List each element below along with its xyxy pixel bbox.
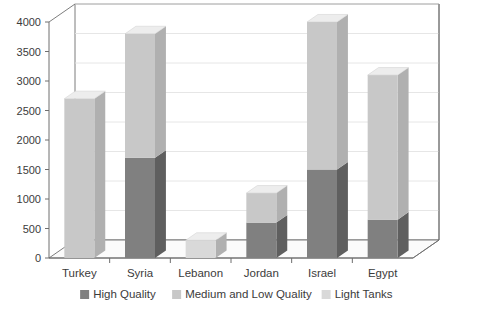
chart-container: 05001000150020002500300035004000 TurkeyS… [0,0,478,312]
square-swatch-icon [322,290,331,299]
y-tick-label: 2500 [17,105,41,117]
x-category-label: Jordan [244,267,279,279]
legend-label: Light Tanks [335,288,393,300]
square-swatch-icon [80,290,89,299]
bar-chart-3d: 05001000150020002500300035004000 TurkeyS… [0,0,478,312]
x-category-label: Lebanon [178,267,223,279]
legend-label: High Quality [93,288,156,300]
y-tick-label: 1500 [17,164,41,176]
x-category-label: Egypt [368,267,398,279]
bar-segment [64,91,105,258]
y-tick-label: 1000 [17,193,41,205]
legend-item[interactable]: High Quality [80,288,156,300]
y-tick-label: 3000 [17,75,41,87]
x-category-label: Turkey [62,267,97,279]
x-category-label: Israel [308,267,336,279]
x-axis-category-labels: TurkeySyriaLebanonJordanIsraelEgypt [62,267,398,279]
bar-segment [125,26,166,157]
chart-legend: High QualityMedium and Low QualityLight … [80,288,393,300]
y-tick-label: 500 [23,223,41,235]
y-tick-label: 3500 [17,46,41,58]
y-tick-label: 0 [35,252,41,264]
y-tick-label: 4000 [17,16,41,28]
legend-item[interactable]: Light Tanks [322,288,393,300]
x-axis-tick-marks [110,258,353,263]
square-swatch-icon [172,290,181,299]
y-axis-ticks [45,22,49,258]
bar-segment [307,162,348,258]
y-tick-label: 2000 [17,134,41,146]
legend-item[interactable]: Medium and Low Quality [172,288,312,300]
y-axis-tick-labels: 05001000150020002500300035004000 [17,16,41,264]
bar-segment [307,14,348,169]
bar-segment [368,68,409,220]
bar-segment [125,150,166,258]
x-category-label: Syria [127,267,154,279]
legend-label: Medium and Low Quality [185,288,312,300]
